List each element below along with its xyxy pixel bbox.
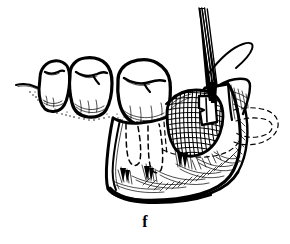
tooth-crown-distal bbox=[118, 60, 171, 127]
tooth-crown-left bbox=[39, 61, 70, 112]
tooth-crown-middle bbox=[70, 58, 112, 117]
figure-panel: f bbox=[0, 0, 290, 244]
panel-label: f bbox=[0, 213, 290, 231]
dental-surgery-line-drawing bbox=[0, 0, 290, 244]
